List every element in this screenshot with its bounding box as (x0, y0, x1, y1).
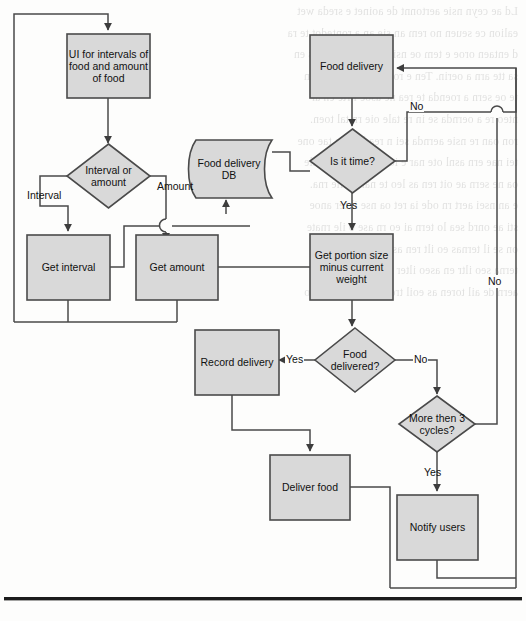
edge-is-it-time-no-right (395, 112, 491, 161)
edge-deliver-food-to-bottom-rail (350, 487, 390, 588)
node-get-portion-size[interactable] (310, 234, 393, 300)
node-food-delivered[interactable] (315, 328, 395, 392)
edge-food-delivered-no (395, 360, 437, 394)
node-food-delivery[interactable] (310, 35, 393, 98)
flowchart-figure: Ld ae ceyn nsie aertonnt de aoinet e sre… (0, 0, 526, 621)
node-deliver-food[interactable] (270, 455, 350, 520)
node-is-it-time[interactable] (310, 129, 395, 193)
node-interval-or-amount[interactable] (67, 144, 150, 208)
node-layer (27, 34, 478, 560)
edge-more-cycles-no (475, 118, 497, 424)
edge-amount-branch-hop (160, 219, 167, 232)
node-notify-users[interactable] (397, 495, 478, 560)
edge-record-to-deliver-food (232, 395, 310, 451)
edge-amount-branch (150, 176, 166, 219)
node-ui[interactable] (67, 34, 150, 98)
edge-notify-to-bottom-rail (437, 560, 516, 578)
node-get-interval[interactable] (27, 235, 110, 300)
node-get-amount[interactable] (136, 235, 218, 300)
edge-interval-branch (40, 176, 68, 231)
page-footer-rule (4, 597, 522, 600)
edge-db-to-is-it-time (272, 152, 310, 171)
flowchart-canvas (0, 0, 526, 621)
node-record-delivery[interactable] (195, 330, 279, 395)
node-more-then-3-cycles[interactable] (399, 396, 475, 452)
edge-is-it-time-no-hop (491, 106, 503, 112)
node-food-delivery-db[interactable] (189, 140, 273, 198)
